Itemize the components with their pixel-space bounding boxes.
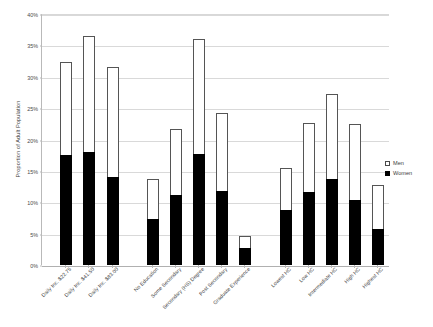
bar-5 (170, 129, 182, 265)
y-axis-tick-label: 40% (27, 12, 38, 18)
bar-1 (60, 62, 72, 265)
bar-segment-women (83, 152, 95, 265)
x-axis-tick-label: Secondary (HS) Degree (161, 266, 205, 310)
x-axis-labels: Daily Inc. $22.75Daily Inc. $41.50Daily … (41, 266, 389, 327)
bar-segment-women (303, 192, 315, 265)
y-axis-tick-label: 15% (27, 169, 38, 175)
y-axis-tick-label: 35% (27, 43, 38, 49)
bar-segment-women (216, 191, 228, 265)
y-axis-tick-label: 20% (27, 138, 38, 144)
x-axis-tick-label: Low HC (298, 266, 316, 284)
chart-container: Proportion of Adult Population 0%5%10%15… (0, 0, 433, 327)
bar-segment-women (147, 219, 159, 265)
plot-area: 0%5%10%15%20%25%30%35%40% (41, 14, 389, 265)
bar-segment-women (326, 179, 338, 265)
legend-swatch-men-icon (385, 161, 390, 166)
bar-series-group (42, 15, 389, 265)
bar-4 (147, 179, 159, 265)
legend-item-women: Women (385, 170, 412, 176)
y-axis-tick-label: 5% (30, 232, 38, 238)
bar-segment-women (107, 177, 119, 265)
y-axis-tick-label: 25% (27, 106, 38, 112)
bar-12 (349, 124, 361, 265)
bar-11 (326, 94, 338, 265)
bar-segment-women (280, 210, 292, 265)
bar-segment-women (60, 155, 72, 265)
y-axis-tick-label: 0% (30, 263, 38, 269)
y-axis-tick-label: 30% (27, 75, 38, 81)
bar-segment-women (349, 200, 361, 265)
bar-10 (303, 123, 315, 265)
bar-13 (372, 185, 384, 265)
bar-8 (239, 236, 251, 265)
x-axis-tick-label: High HC (343, 266, 361, 284)
bar-7 (216, 113, 228, 265)
x-axis-tick-label: Highest HC (361, 266, 384, 289)
bar-2 (83, 36, 95, 265)
bar-segment-women (193, 154, 205, 265)
legend-label-women: Women (393, 170, 412, 176)
y-axis-tick-label: 10% (27, 200, 38, 206)
legend-label-men: Men (393, 160, 404, 166)
bar-segment-women (372, 229, 384, 265)
y-axis-title: Proportion of Adult Population (15, 64, 21, 214)
bar-segment-women (239, 248, 251, 265)
legend-item-men: Men (385, 160, 412, 166)
bar-6 (193, 39, 205, 265)
legend-swatch-women-icon (385, 171, 390, 176)
bar-3 (107, 67, 119, 265)
bar-9 (280, 168, 292, 265)
x-axis-tick-label: Lowest HC (270, 266, 293, 289)
chart-legend: Men Women (385, 160, 412, 180)
bar-segment-women (170, 195, 182, 265)
